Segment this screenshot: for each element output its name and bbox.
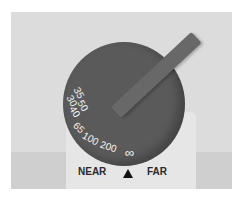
near-label: NEAR: [78, 166, 106, 177]
far-label: FAR: [147, 166, 167, 177]
scale-mark-infinity: ∞: [125, 148, 134, 158]
focus-dial-photo: 30 35 40 50 65 100 200 ∞ NEAR FAR: [11, 12, 232, 189]
index-marker-triangle-icon: [123, 169, 133, 178]
